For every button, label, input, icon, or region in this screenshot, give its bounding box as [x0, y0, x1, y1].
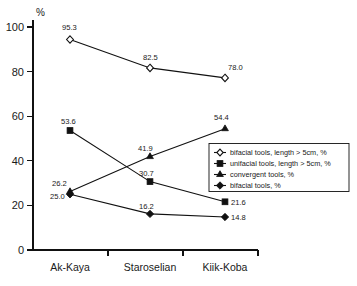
series-convergent-tools: 26.2 41.9 54.4	[52, 113, 229, 194]
series-2-label-2: 30.7	[139, 169, 154, 178]
series-1-marker-1	[67, 36, 74, 43]
x-tick-label-staroselian: Staroselian	[124, 261, 177, 273]
legend-item-unifacial-over-5cm: unifacial tools, length > 5cm, %	[214, 159, 331, 168]
series-3-label-3: 54.4	[214, 113, 229, 122]
series-1-label-1: 95.3	[62, 23, 77, 32]
legend-label-3: convergent tools, %	[230, 170, 295, 179]
series-1-marker-3	[222, 74, 229, 81]
legend-label-1: bifacial tools, length > 5cm, %	[230, 148, 327, 157]
y-tick-label-40: 40	[12, 155, 24, 167]
series-bifacial-tools-over-5cm: 95.3 82.5 78.0	[62, 23, 243, 82]
series-2-marker-1	[67, 128, 73, 134]
y-tick-label-100: 100	[6, 21, 24, 33]
series-3-marker-3	[222, 125, 229, 131]
series-1-marker-2	[147, 64, 154, 71]
series-4-marker-3	[221, 213, 228, 220]
legend-item-bifacial-over-5cm: bifacial tools, length > 5cm, %	[214, 148, 327, 157]
legend-label-2: unifacial tools, length > 5cm, %	[230, 159, 331, 168]
series-4-label-2: 16.2	[139, 202, 154, 211]
y-tick-label-0: 0	[18, 244, 24, 256]
series-4-marker-2	[146, 210, 153, 217]
series-3-label-1: 26.2	[52, 179, 67, 188]
x-tick-label-ak-kaya: Ak-Kaya	[50, 261, 90, 273]
series-1-label-3: 78.0	[228, 63, 243, 72]
series-1-label-2: 82.5	[143, 53, 158, 62]
series-2-marker-2	[147, 179, 153, 185]
y-axis-unit-label: %	[36, 7, 45, 18]
y-tick-label-20: 20	[12, 199, 24, 211]
series-2-marker-3	[222, 199, 228, 205]
series-2-label-1: 53.6	[61, 117, 76, 126]
y-tick-label-60: 60	[12, 110, 24, 122]
legend-marker-square-icon	[217, 161, 223, 167]
series-bifacial-tools: 25.0 16.2 14.8	[50, 191, 246, 222]
x-tick-label-kiik-koba: Kiik-Koba	[203, 261, 248, 273]
series-3-label-2: 41.9	[138, 144, 153, 153]
series-4-label-3: 14.8	[231, 213, 246, 222]
chart-container: % 100 80 60 40 20 0 Ak-Kaya Staroselian …	[0, 0, 357, 286]
series-2-line	[70, 131, 225, 202]
legend-label-4: bifacial tools, %	[230, 181, 281, 190]
line-chart: % 100 80 60 40 20 0 Ak-Kaya Staroselian …	[0, 0, 357, 286]
legend: bifacial tools, length > 5cm, % unifacia…	[209, 144, 349, 192]
series-2-label-3: 21.6	[231, 198, 246, 207]
y-tick-label-80: 80	[12, 66, 24, 78]
series-4-label-1: 25.0	[50, 192, 65, 201]
